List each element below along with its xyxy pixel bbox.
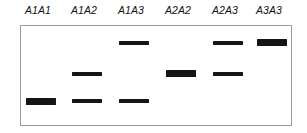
- lane-label-a1a1: A1A1: [22, 3, 54, 17]
- band-a1a2-row-middle: [72, 72, 102, 76]
- lane-label-a2a2: A2A2: [162, 3, 194, 17]
- lane-label-a2a3: A2A3: [209, 3, 241, 17]
- gel-panel: [20, 25, 292, 126]
- lane-label-a1a2: A1A2: [68, 3, 100, 17]
- lane-label-a1a3: A1A3: [115, 3, 147, 17]
- band-a1a3-row-bottom: [119, 99, 149, 103]
- band-a2a3-row-top: [213, 41, 243, 45]
- band-a1a2-row-bottom: [72, 99, 102, 103]
- band-a3a3-row-top: [257, 39, 287, 46]
- band-a1a3-row-top: [119, 41, 149, 45]
- band-a1a1-row-bottom: [26, 98, 56, 105]
- lane-label-a3a3: A3A3: [253, 3, 285, 17]
- gel-electrophoresis-figure: A1A1A1A2A1A3A2A2A2A3A3A3: [0, 0, 307, 133]
- band-a2a3-row-middle: [213, 72, 243, 76]
- band-a2a2-row-middle: [166, 70, 196, 77]
